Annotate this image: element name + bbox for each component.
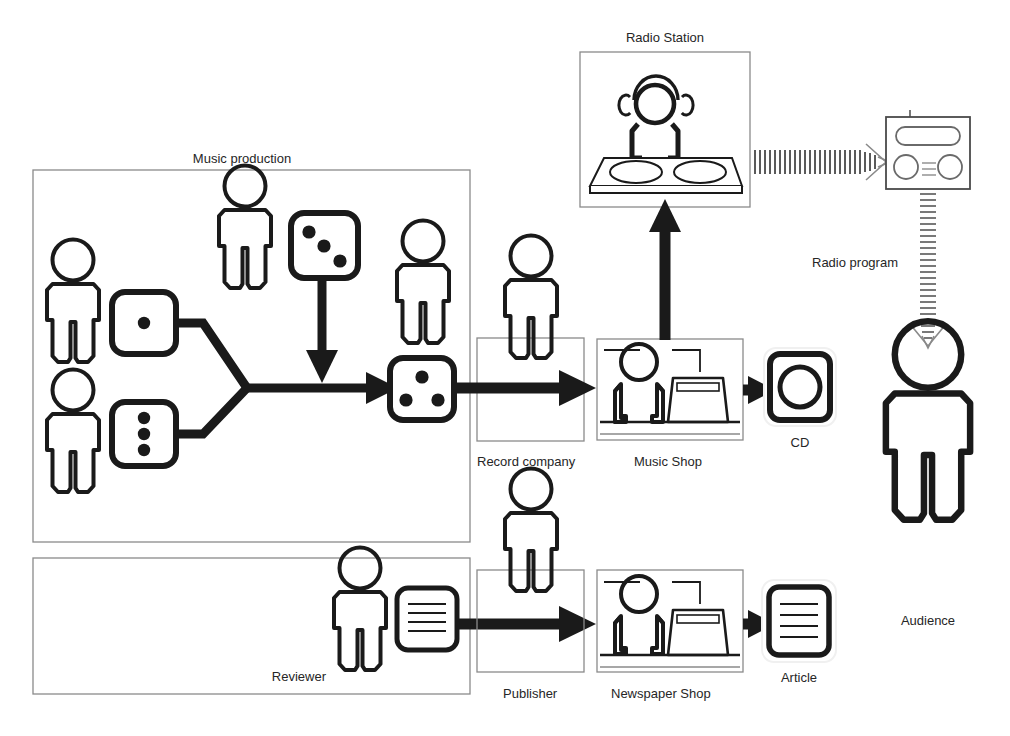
die-three-vertical-icon	[112, 402, 176, 466]
artifact-radio-receiver	[886, 110, 970, 189]
actor-audience	[886, 321, 970, 519]
node-radio-station: Radio Station	[580, 30, 750, 207]
die-one-dot-icon	[112, 292, 176, 354]
label-radio-program: Radio program	[812, 255, 898, 270]
artifact-review-document	[397, 588, 457, 650]
flow-to-record-company	[454, 370, 596, 406]
artifact-article: Article	[762, 580, 836, 685]
flow-merge	[176, 323, 247, 434]
actor-producer	[219, 166, 271, 289]
label-cd: CD	[791, 435, 810, 450]
actor-artist	[397, 221, 449, 344]
flow-radio-program: Radio program	[812, 194, 946, 348]
flow-producer-down	[306, 278, 338, 383]
node-record-company: Record company	[477, 338, 584, 469]
actor-publisher	[505, 469, 557, 592]
label-record-company: Record company	[477, 454, 576, 469]
actor-composer	[47, 240, 99, 363]
actor-record-company-staff	[505, 236, 557, 359]
label-audience: Audience	[901, 613, 955, 628]
diagram-canvas: Music production	[0, 0, 1010, 736]
die-three-diagonal-icon	[291, 213, 358, 278]
actor-dj	[619, 76, 693, 158]
label-reviewer: Reviewer	[272, 669, 327, 684]
label-article: Article	[781, 670, 817, 685]
label-newspaper-shop: Newspaper Shop	[611, 686, 711, 701]
flow-to-radio-station	[649, 199, 681, 340]
artifact-cd: CD	[764, 348, 836, 450]
label-publisher: Publisher	[503, 686, 558, 701]
node-music-shop: Music Shop	[597, 339, 743, 469]
turntable-desk-icon	[590, 158, 742, 193]
label-radio-station: Radio Station	[626, 30, 704, 45]
node-newspaper-shop: Newspaper Shop	[597, 570, 743, 701]
flow-broadcast-wave	[755, 144, 890, 180]
die-three-triangle-icon	[390, 358, 454, 420]
label-music-shop: Music Shop	[634, 454, 702, 469]
flow-review	[457, 606, 596, 642]
actor-lyricist	[47, 370, 99, 493]
actor-reviewer	[334, 548, 386, 671]
